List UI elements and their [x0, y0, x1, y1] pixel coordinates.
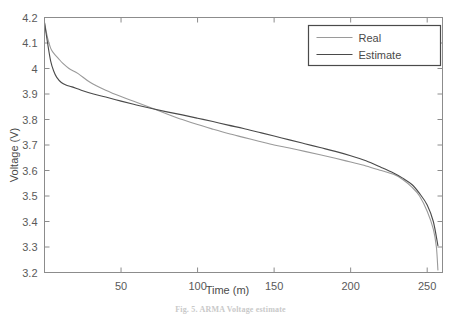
x-tick-label: 250	[418, 280, 436, 292]
figure-container: 501001502002503.23.33.43.53.63.73.83.944…	[0, 0, 461, 317]
x-axis-title: Time (m)	[206, 284, 250, 296]
figure-caption: Fig. 5. ARMA Voltage estimate	[0, 305, 461, 314]
x-tick-label: 50	[115, 280, 127, 292]
legend-label-estimate: Estimate	[359, 49, 402, 61]
legend[interactable]: RealEstimate	[309, 26, 441, 66]
y-tick-label: 3.8	[22, 114, 37, 126]
x-tick-label: 200	[341, 280, 359, 292]
x-tick-label: 100	[188, 280, 206, 292]
y-tick-label: 4.2	[22, 12, 37, 24]
x-tick-label: 150	[265, 280, 283, 292]
y-tick-label: 3.2	[22, 267, 37, 279]
y-tick-label: 3.5	[22, 190, 37, 202]
y-axis-title: Voltage (V)	[8, 128, 20, 182]
voltage-estimate-chart: 501001502002503.23.33.43.53.63.73.83.944…	[0, 0, 461, 317]
y-tick-label: 3.3	[22, 241, 37, 253]
y-tick-label: 3.6	[22, 165, 37, 177]
y-tick-label: 3.7	[22, 139, 37, 151]
y-tick-label: 4.1	[22, 37, 37, 49]
legend-label-real: Real	[359, 32, 382, 44]
y-tick-label: 3.4	[22, 216, 37, 228]
y-tick-label: 4	[31, 63, 37, 75]
y-tick-label: 3.9	[22, 88, 37, 100]
